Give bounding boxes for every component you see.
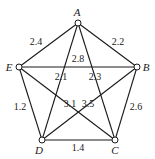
node-b — [134, 64, 140, 70]
node-label-d: D — [34, 144, 43, 156]
edge-weight-a-c: 2.3 — [89, 71, 102, 82]
edge-weight-b-c: 2.6 — [130, 101, 143, 112]
weighted-graph-diagram: 2.42.22.82.12.31.23.13.52.61.4 ABCDE — [0, 0, 155, 159]
node-labels-group: ABCDE — [5, 6, 150, 156]
edge-weight-b-d: 3.5 — [82, 98, 95, 109]
node-label-a: A — [73, 6, 81, 18]
node-e — [16, 64, 22, 70]
edge-a-b — [78, 23, 137, 67]
node-label-e: E — [5, 61, 13, 73]
node-c — [112, 137, 118, 143]
edge-weight-d-c: 1.4 — [72, 142, 85, 153]
edge-weight-e-c: 3.1 — [64, 98, 77, 109]
edge-weights-group: 2.42.22.82.12.31.23.13.52.61.4 — [14, 36, 143, 153]
edge-weight-e-b: 2.8 — [72, 53, 85, 64]
edge-a-e — [19, 23, 78, 67]
node-label-b: B — [143, 61, 150, 73]
edge-weight-a-e: 2.4 — [30, 36, 43, 47]
edge-weight-e-d: 1.2 — [14, 101, 27, 112]
edge-weight-a-b: 2.2 — [112, 36, 125, 47]
edge-weight-a-d: 2.1 — [55, 71, 68, 82]
node-label-c: C — [111, 144, 119, 156]
node-a — [75, 20, 81, 26]
node-d — [39, 137, 45, 143]
